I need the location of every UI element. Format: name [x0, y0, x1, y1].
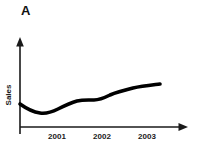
chart-figure-panel: A Sales 2001 2002 2003	[0, 0, 200, 150]
line-chart-plot: Sales 2001 2002 2003	[0, 0, 200, 150]
x-tick-label-2003: 2003	[138, 132, 156, 141]
y-axis-title: Sales	[4, 84, 13, 105]
x-tick-label-2001: 2001	[48, 132, 66, 141]
x-axis-arrowhead	[179, 123, 189, 131]
x-tick-label-2002: 2002	[93, 132, 111, 141]
y-axis-arrowhead	[16, 37, 24, 47]
sales-trend-line	[20, 84, 160, 113]
